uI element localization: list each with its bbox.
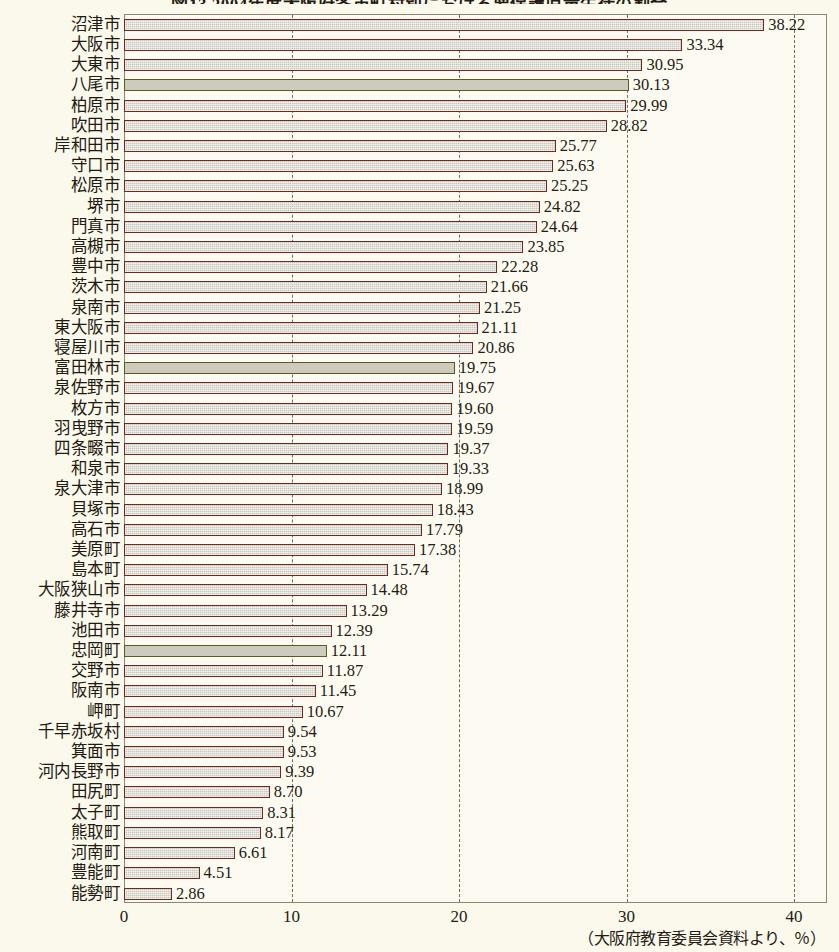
bar-value-label: 24.64 — [541, 217, 578, 237]
bar — [124, 180, 547, 192]
bar-row: 河内長野市9.39 — [0, 762, 839, 783]
bar-value-label: 17.79 — [426, 520, 463, 540]
bar-value-label: 24.82 — [544, 197, 581, 217]
bar — [124, 807, 263, 819]
bar — [124, 544, 415, 556]
bar-row: 池田市12.39 — [0, 620, 839, 641]
category-label: 岸和田市 — [54, 138, 120, 155]
bar-value-label: 25.25 — [551, 176, 588, 196]
bar — [124, 59, 642, 71]
bar — [124, 403, 452, 415]
bar — [124, 443, 448, 455]
bar — [124, 605, 347, 617]
bar-row: 柏原市29.99 — [0, 95, 839, 116]
category-label: 泉大津市 — [54, 481, 120, 498]
bar — [124, 463, 448, 475]
bar-row: 大阪市33.34 — [0, 34, 839, 55]
bar-value-label: 11.45 — [320, 681, 357, 701]
bar-row: 泉大津市18.99 — [0, 479, 839, 500]
category-label: 千早赤坂村 — [38, 724, 121, 741]
bar — [124, 726, 284, 738]
bar-row: 沼津市38.22 — [0, 14, 839, 35]
category-label: 岬町 — [87, 703, 120, 720]
bar-row: 藤井寺市13.29 — [0, 600, 839, 621]
bar-value-label: 11.87 — [327, 661, 364, 681]
bar — [124, 79, 629, 91]
bar-value-label: 9.39 — [285, 762, 314, 782]
bar-row: 忠岡町12.11 — [0, 640, 839, 661]
x-tick-label: 20 — [451, 907, 468, 927]
bar-value-label: 20.86 — [477, 338, 514, 358]
category-label: 羽曳野市 — [54, 421, 120, 438]
bar-row: 守口市25.63 — [0, 155, 839, 176]
bar-value-label: 4.51 — [204, 863, 233, 883]
bar-value-label: 12.11 — [331, 641, 368, 661]
bar-row: 吹田市28.82 — [0, 115, 839, 136]
bar-row: 泉佐野市19.67 — [0, 378, 839, 399]
bar — [124, 665, 323, 677]
bar-value-label: 19.67 — [457, 378, 494, 398]
bar — [124, 19, 764, 31]
bar-value-label: 13.29 — [351, 601, 388, 621]
category-label: 田尻町 — [71, 784, 121, 801]
bar-value-label: 30.95 — [646, 55, 683, 75]
bar-value-label: 18.43 — [437, 500, 474, 520]
bar-value-label: 30.13 — [633, 75, 670, 95]
bar-value-label: 23.85 — [527, 237, 564, 257]
category-label: 貝塚市 — [71, 501, 121, 518]
bar — [124, 100, 626, 112]
bar — [124, 847, 235, 859]
bar-row: 大東市30.95 — [0, 54, 839, 75]
bar — [124, 888, 172, 900]
category-label: 藤井寺市 — [54, 602, 120, 619]
bar-value-label: 33.34 — [686, 35, 723, 55]
category-label: 泉南市 — [71, 299, 121, 316]
category-label: 河南町 — [71, 845, 121, 862]
bar-row: 寝屋川市20.86 — [0, 337, 839, 358]
bar-row: 大阪狭山市14.48 — [0, 580, 839, 601]
bar — [124, 786, 270, 798]
bar — [124, 625, 332, 637]
category-label: 高石市 — [71, 522, 121, 539]
bar-value-label: 19.60 — [456, 399, 493, 419]
category-label: 松原市 — [71, 178, 121, 195]
bar-value-label: 25.63 — [557, 156, 594, 176]
category-label: 熊取町 — [71, 825, 121, 842]
bar-value-label: 19.37 — [452, 439, 489, 459]
category-label: 四条畷市 — [54, 441, 120, 458]
bar-row: 交野市11.87 — [0, 661, 839, 682]
bar-value-label: 8.70 — [274, 782, 303, 802]
bar-chart: 図13 2004年度大阪府各市町村別における要保護児童生徒の割合 沼津市38.2… — [0, 0, 839, 952]
category-label: 大阪狭山市 — [38, 582, 121, 599]
bar-value-label: 19.33 — [452, 459, 489, 479]
bar-value-label: 8.17 — [265, 823, 294, 843]
bar-value-label: 21.11 — [482, 318, 519, 338]
bar-rows: 沼津市38.22大阪市33.34大東市30.95八尾市30.13柏原市29.99… — [0, 14, 839, 903]
bar-row: 美原町17.38 — [0, 539, 839, 560]
bar — [124, 584, 367, 596]
bar-row: 能勢町2.86 — [0, 883, 839, 904]
bar-row: 富田林市19.75 — [0, 357, 839, 378]
bar — [124, 706, 303, 718]
bar-row: 東大阪市21.11 — [0, 317, 839, 338]
category-label: 能勢町 — [71, 885, 121, 902]
bar-value-label: 10.67 — [307, 702, 344, 722]
category-label: 柏原市 — [71, 97, 121, 114]
bar — [124, 281, 487, 293]
bar-value-label: 22.28 — [501, 257, 538, 277]
bar-row: 門真市24.64 — [0, 216, 839, 237]
bar-value-label: 28.82 — [611, 116, 648, 136]
bar-row: 箕面市9.53 — [0, 741, 839, 762]
bar-row: 貝塚市18.43 — [0, 499, 839, 520]
bar — [124, 423, 452, 435]
category-label: 泉佐野市 — [54, 380, 120, 397]
category-label: 池田市 — [71, 623, 121, 640]
bar-row: 和泉市19.33 — [0, 459, 839, 480]
bar-value-label: 9.53 — [288, 742, 317, 762]
x-tick-label: 0 — [120, 907, 129, 927]
bar-row: 阪南市11.45 — [0, 681, 839, 702]
category-label: 吹田市 — [71, 117, 121, 134]
bar-row: 高槻市23.85 — [0, 236, 839, 257]
bar-value-label: 21.66 — [491, 277, 528, 297]
bar — [124, 140, 556, 152]
